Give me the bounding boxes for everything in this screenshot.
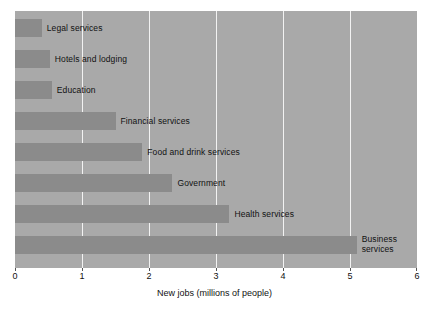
bar[interactable] (15, 205, 229, 223)
bar-label: Business services (362, 235, 406, 253)
bar-row[interactable]: Education (15, 81, 417, 99)
tick-label-5: 5 (347, 271, 352, 281)
bar-label: Health services (234, 205, 294, 223)
x-axis: 0123456 (15, 268, 417, 288)
bar-row[interactable]: Financial services (15, 112, 417, 130)
bar-row[interactable]: Legal services (15, 19, 417, 37)
bar-label: Education (57, 81, 96, 99)
bar[interactable] (15, 19, 42, 37)
tick-label-1: 1 (79, 271, 84, 281)
bar[interactable] (15, 143, 142, 161)
tick-label-2: 2 (146, 271, 151, 281)
tick-label-3: 3 (213, 271, 218, 281)
bar-label: Food and drink services (147, 143, 240, 161)
plot-area: Legal servicesHotels and lodgingEducatio… (15, 11, 417, 268)
bar-row[interactable]: Hotels and lodging (15, 50, 417, 68)
bar[interactable] (15, 50, 50, 68)
tick-label-0: 0 (12, 271, 17, 281)
bar-label: Hotels and lodging (55, 50, 127, 68)
tick-label-6: 6 (414, 271, 419, 281)
bar-row[interactable]: Business services (15, 236, 417, 254)
bar[interactable] (15, 236, 357, 254)
bar-label: Government (177, 174, 225, 192)
tick-label-4: 4 (280, 271, 285, 281)
bar-row[interactable]: Health services (15, 205, 417, 223)
bar[interactable] (15, 81, 52, 99)
bar-label: Financial services (121, 112, 190, 130)
x-axis-title: New jobs (millions of people) (0, 288, 429, 298)
bar[interactable] (15, 112, 116, 130)
bar[interactable] (15, 174, 172, 192)
bar-chart: Legal servicesHotels and lodgingEducatio… (0, 0, 429, 309)
bar-row[interactable]: Government (15, 174, 417, 192)
bar-row[interactable]: Food and drink services (15, 143, 417, 161)
bar-label: Legal services (47, 19, 103, 37)
